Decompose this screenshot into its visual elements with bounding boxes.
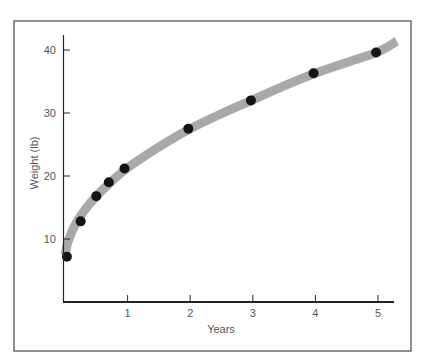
fitted-curve bbox=[65, 41, 397, 255]
y-ticks: 10203040 bbox=[44, 44, 70, 245]
x-tick-label: 1 bbox=[125, 307, 131, 319]
x-tick-label: 4 bbox=[312, 307, 318, 319]
curve-layer bbox=[65, 41, 397, 255]
y-tick-label: 40 bbox=[44, 44, 56, 56]
y-tick-label: 10 bbox=[44, 233, 56, 245]
data-point bbox=[309, 68, 319, 78]
data-point bbox=[91, 191, 101, 201]
data-point bbox=[76, 216, 86, 226]
x-tick-label: 2 bbox=[187, 307, 193, 319]
y-axis-title: Weight (lb) bbox=[28, 137, 40, 190]
x-ticks: 12345 bbox=[125, 295, 382, 319]
y-tick-label: 30 bbox=[44, 107, 56, 119]
points-layer bbox=[62, 48, 381, 262]
data-point bbox=[183, 124, 193, 134]
x-axis-title: Years bbox=[207, 323, 235, 335]
data-point bbox=[246, 95, 256, 105]
growth-chart: 12345 10203040 Years Weight (lb) bbox=[0, 0, 422, 363]
x-tick-label: 3 bbox=[250, 307, 256, 319]
y-tick-label: 20 bbox=[44, 170, 56, 182]
data-point bbox=[371, 48, 381, 58]
data-point bbox=[119, 163, 129, 173]
data-point bbox=[104, 177, 114, 187]
x-tick-label: 5 bbox=[375, 307, 381, 319]
